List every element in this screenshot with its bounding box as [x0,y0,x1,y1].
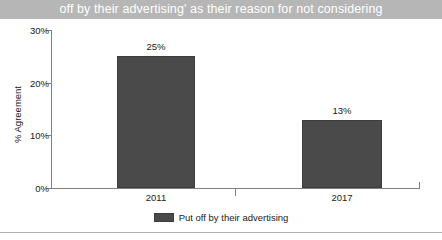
legend-label: Put off by their advertising [179,212,289,223]
y-axis-line [51,30,52,189]
bottom-divider [0,232,442,233]
x-axis-label-2011: 2011 [126,192,186,203]
chart-plot-container: % Agreement 0%10%20%30% 25%13% 20112017 … [0,19,442,240]
x-axis-label-2017: 2017 [312,192,372,203]
legend-color-swatch [154,213,174,222]
bar-value-label: 25% [126,41,186,52]
x-axis-category-separator-tick [235,188,236,196]
x-axis-end-tick [419,182,420,189]
chart-legend: Put off by their advertising [0,212,442,223]
bar-2017[interactable] [302,120,382,188]
y-axis-tick-label: 30% [7,25,51,36]
y-axis-tick-label: 10% [7,130,51,141]
y-axis-tick-label: 0% [7,183,51,194]
chart-title: off by their advertising' as their reaso… [59,0,382,19]
chart-title-band: off by their advertising' as their reaso… [0,0,442,19]
bar-2011[interactable] [117,56,195,188]
bar-value-label: 13% [312,105,372,116]
y-axis-tick-label: 20% [7,77,51,88]
